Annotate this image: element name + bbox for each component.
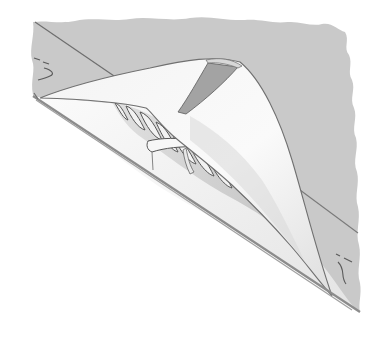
sail-corner-drawing (0, 0, 385, 338)
sail-illustration (0, 0, 385, 338)
